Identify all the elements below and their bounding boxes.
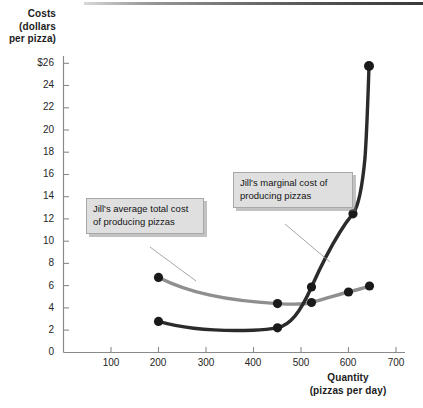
- x-tick-label-400: 400: [231, 357, 275, 368]
- y-tick-label-0: 0: [14, 346, 54, 357]
- x-tick-label-500: 500: [279, 357, 323, 368]
- y-tick-label-2: 2: [14, 324, 54, 335]
- y-tick-label-10: 10: [14, 235, 54, 246]
- data-point: [307, 298, 316, 307]
- y-axis-title-line-1: Costs: [0, 8, 56, 21]
- y-tick-label-24: 24: [14, 79, 54, 90]
- x-tick-label-600: 600: [326, 357, 370, 368]
- average-total-cost-curve: [159, 277, 373, 304]
- y-tick-label-8: 8: [14, 257, 54, 268]
- y-axis-title: Costs (dollars per pizza): [0, 8, 56, 46]
- data-point: [307, 282, 316, 291]
- callout-marginal-cost: Jill's marginal cost of producing pizzas: [233, 172, 353, 208]
- y-tick-label-4: 4: [14, 302, 54, 313]
- x-axis-title: Quantity (pizzas per day): [278, 372, 418, 397]
- y-axis-title-line-3: per pizza): [0, 33, 56, 46]
- y-tick-marks: [64, 63, 70, 330]
- y-tick-label-6: 6: [14, 280, 54, 291]
- y-axis-title-line-2: (dollars: [0, 21, 56, 34]
- callout-leader-line-mc: [285, 224, 330, 262]
- data-point: [348, 209, 357, 218]
- y-tick-label-18: 18: [14, 146, 54, 157]
- data-point: [364, 61, 374, 71]
- data-point: [273, 299, 282, 308]
- x-axis-title-line-1: Quantity: [278, 372, 418, 385]
- data-point: [154, 273, 163, 282]
- y-tick-label-14: 14: [14, 190, 54, 201]
- y-tick-label-26: $26: [14, 57, 54, 68]
- data-point: [365, 281, 374, 290]
- x-tick-label-300: 300: [184, 357, 228, 368]
- data-point: [154, 317, 163, 326]
- y-tick-label-20: 20: [14, 124, 54, 135]
- cost-curves-figure: Costs (dollars per pizza) Quantity (pizz…: [0, 0, 423, 408]
- x-tick-label-200: 200: [136, 357, 180, 368]
- x-tick-marks: [111, 347, 396, 353]
- y-tick-label-16: 16: [14, 168, 54, 179]
- data-point: [344, 287, 353, 296]
- x-tick-label-700: 700: [374, 357, 418, 368]
- x-axis-title-line-2: (pizzas per day): [278, 385, 418, 398]
- y-tick-label-12: 12: [14, 213, 54, 224]
- data-point: [273, 323, 282, 332]
- x-tick-label-100: 100: [89, 357, 133, 368]
- chart-plot-area: [0, 0, 423, 408]
- y-tick-label-22: 22: [14, 101, 54, 112]
- callout-average-total-cost: Jill's average total cost of producing p…: [86, 198, 204, 234]
